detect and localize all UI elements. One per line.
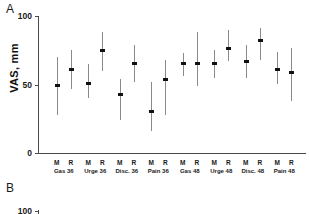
error-bar [88,64,89,98]
x-axis-line [38,153,306,154]
x-tick-label-r: R [94,159,110,166]
error-bar [197,32,198,85]
y-tick-label: 50 [6,80,32,90]
data-point-marker [118,93,123,96]
data-point-marker [226,47,231,50]
y-axis-line [38,16,39,154]
x-group-label: Pain 48 [264,168,304,174]
error-bar [214,50,215,77]
error-bar [291,48,292,101]
y-tick-label: 100 [6,11,32,21]
error-bar [57,57,58,115]
error-bar [260,28,261,60]
figure: A VAS, mm 050100 MRGas 36MRUrge 36MRDisc… [0,0,309,214]
error-bar [120,79,121,120]
data-point-marker [55,84,60,87]
x-tick-label-r: R [283,159,299,166]
x-tick-label-r: R [252,159,268,166]
panel-a-chart: VAS, mm 050100 MRGas 36MRUrge 36MRDisc. … [0,0,309,178]
y-axis-label: VAS, mm [8,28,20,108]
data-point-marker [86,82,91,85]
x-tick-label-r: R [126,159,142,166]
data-point-marker [244,60,249,63]
y-tick-mark [35,16,38,17]
data-point-marker [132,62,137,65]
panel-b-y-axis-line [38,210,39,214]
data-point-marker [212,62,217,65]
error-bar [165,60,166,115]
error-bar [134,45,135,82]
data-point-marker [69,68,74,71]
error-bar [151,82,152,131]
x-tick-label-r: R [157,159,173,166]
data-point-marker [275,68,280,71]
panel-b-chart: 100 [0,178,309,214]
error-bar [102,32,103,70]
plot-area [0,0,309,178]
data-point-marker [149,110,154,113]
y-tick-mark [35,85,38,86]
y-tick-label: 0 [6,148,32,158]
error-bar [228,30,229,62]
data-point-marker [163,78,168,81]
x-tick-label-r: R [220,159,236,166]
panel-b-y-tick-label: 100 [6,206,32,214]
data-point-marker [195,62,200,65]
x-tick-label-r: R [189,159,205,166]
y-tick-mark [35,153,38,154]
data-point-marker [289,71,294,74]
data-point-marker [258,39,263,42]
data-point-marker [181,62,186,65]
error-bar [246,45,247,78]
error-bar [277,52,278,85]
x-tick-label-r: R [63,159,79,166]
error-bar [71,50,72,88]
error-bar [183,53,184,76]
data-point-marker [100,49,105,52]
